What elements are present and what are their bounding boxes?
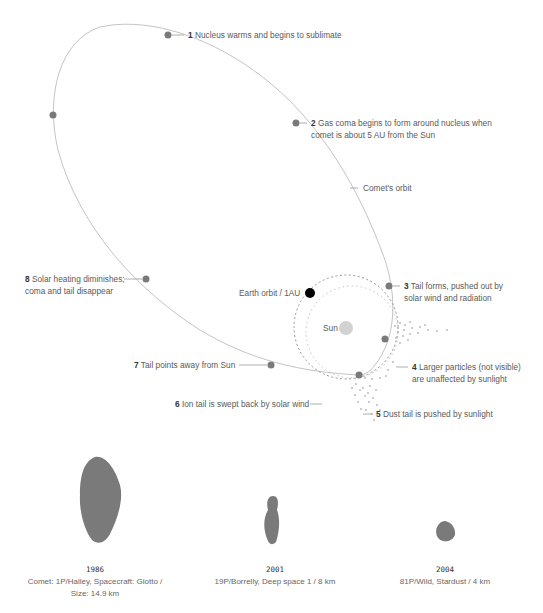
- leader-lines: [124, 35, 408, 414]
- wild-caption: 2004 81P/Wild, Stardust / 4 km: [380, 564, 510, 588]
- position-8-dot: [143, 276, 150, 283]
- stage-2-label: 2 Gas coma begins to form around nucleus…: [311, 117, 492, 141]
- position-3-dot: [386, 283, 393, 290]
- earth-orbit-label: Earth orbit / 1AU: [239, 287, 300, 299]
- earth-orbit-circle-2: [306, 286, 398, 378]
- sun-icon: [339, 321, 353, 335]
- stage-8-label: 8 Solar heating diminishes;coma and tail…: [25, 273, 125, 297]
- position-5-dot: [356, 372, 363, 379]
- position-2-dot: [293, 120, 300, 127]
- position-7-dot: [268, 362, 275, 369]
- comet-orbit-diagram: [0, 0, 543, 613]
- stage-6-label: 6 Ion tail is swept back by solar wind: [175, 398, 309, 410]
- wild-year: 2004: [380, 564, 510, 576]
- sun-label: Sun: [323, 322, 338, 334]
- stage-4-label: 4 Larger particles (not visible)are unaf…: [412, 361, 521, 385]
- borrelly-year: 2001: [195, 564, 355, 576]
- comet-orbit-label: Comet's orbit: [363, 182, 412, 194]
- stage-5-label: 5 Dust tail is pushed by sunlight: [376, 408, 493, 420]
- stage-7-label: 7 Tail points away from Sun: [134, 359, 235, 371]
- borrelly-caption: 2001 19P/Borrelly, Deep space 1 / 8 km: [195, 564, 355, 588]
- position-dot: [50, 112, 57, 119]
- borrelly-nucleus-shape: [264, 496, 279, 544]
- halley-caption: 1986 Comet: 1P/Halley, Spacecraft: Giott…: [20, 564, 170, 600]
- position-1-dot: [165, 32, 172, 39]
- earth-icon: [305, 288, 315, 298]
- stage-1-label: 1 Nucleus warms and begins to sublimate: [188, 29, 342, 41]
- halley-year: 1986: [20, 564, 170, 576]
- halley-nucleus-shape: [80, 457, 121, 543]
- position-4-dot: [382, 336, 389, 343]
- wild-nucleus-shape: [436, 521, 455, 541]
- stage-3-label: 3 Tail forms, pushed out bysolar wind an…: [404, 280, 503, 304]
